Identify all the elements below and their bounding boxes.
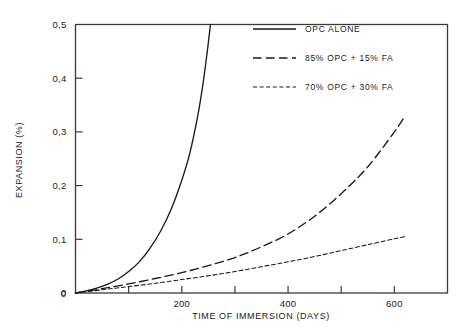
legend-label-15fa: 85% OPC + 15% FA (305, 53, 393, 63)
x-tick-label: 0 (61, 288, 67, 299)
y-tick-label: 0,3 (52, 126, 66, 137)
legend-label-30fa: 70% OPC + 30% FA (305, 82, 393, 92)
x-tick-label: 200 (173, 298, 190, 309)
y-tick-label: 0,2 (52, 180, 66, 191)
x-tick-label: 400 (280, 298, 297, 309)
x-axis-title: TIME OF IMMERSION (DAYS) (192, 311, 330, 321)
y-tick-label: 0,4 (52, 73, 66, 84)
chart-canvas: 00,10,20,30,40,5 0200400600 TIME OF IMME… (0, 0, 467, 331)
y-axis-title: EXPANSION (%) (14, 122, 24, 198)
x-tick-label: 600 (386, 298, 403, 309)
chart-background (0, 0, 467, 331)
legend-label-opc-alone: OPC ALONE (305, 24, 360, 34)
expansion-vs-immersion-chart: 00,10,20,30,40,5 0200400600 TIME OF IMME… (0, 0, 467, 331)
y-tick-label: 0,1 (52, 234, 66, 245)
y-tick-label: 0,5 (52, 19, 66, 30)
